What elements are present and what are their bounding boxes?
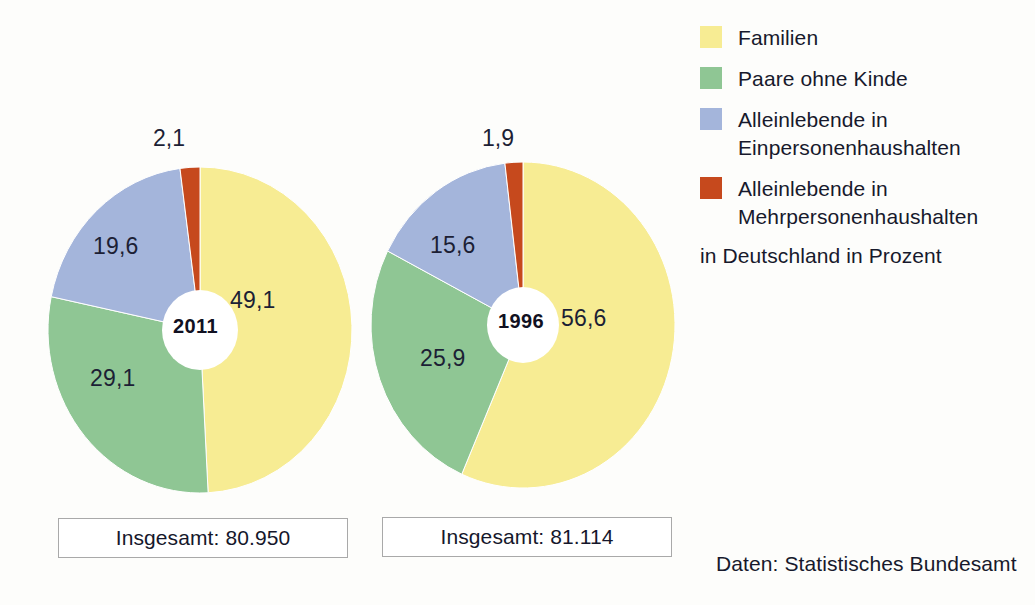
legend-swatch-blue xyxy=(700,108,722,130)
slice-label-orange-1996: 1,9 xyxy=(482,125,514,152)
legend-label-paare-ohne-kinde: Paare ohne Kinde xyxy=(738,65,908,93)
legend-swatch-orange xyxy=(700,177,722,199)
legend-item-mehrpersonenhaushalten: Alleinlebende in Mehrpersonenhaushalten xyxy=(700,175,1020,231)
legend: Familien Paare ohne Kinde Alleinlebende … xyxy=(700,24,1020,268)
legend-label-mehrpersonenhaushalten: Alleinlebende in Mehrpersonenhaushalten xyxy=(738,175,978,231)
legend-item-familien: Familien xyxy=(700,24,1020,52)
legend-item-paare-ohne-kinde: Paare ohne Kinde xyxy=(700,65,1020,93)
slice-label-orange-2011: 2,1 xyxy=(153,125,185,152)
total-box-2011: Insgesamt: 80.950 xyxy=(58,518,348,558)
slice-label-blue-1996: 15,6 xyxy=(430,232,476,259)
legend-label-einpersonenhaushalten: Alleinlebende in Einpersonenhaushalten xyxy=(738,106,961,162)
legend-item-einpersonenhaushalten: Alleinlebende in Einpersonenhaushalten xyxy=(700,106,1020,162)
slice-label-yellow-2011: 49,1 xyxy=(230,287,276,314)
source-note: Daten: Statistisches Bundesamt xyxy=(716,552,1017,576)
legend-label-familien: Familien xyxy=(738,24,818,52)
pie-chart-1996: 1,9 56,6 25,9 15,6 1996 xyxy=(368,160,678,490)
slice-label-blue-2011: 19,6 xyxy=(93,233,139,260)
slice-label-yellow-1996: 56,6 xyxy=(561,305,607,332)
pie-center-label-1996: 1996 xyxy=(498,310,544,333)
chart-canvas: 2,1 49,1 29,1 19,6 2011 1,9 56,6 25,9 15… xyxy=(0,0,1035,605)
legend-swatch-green xyxy=(700,67,722,89)
total-box-1996: Insgesamt: 81.114 xyxy=(382,517,672,557)
pie-chart-2011: 2,1 49,1 29,1 19,6 2011 xyxy=(45,165,355,495)
legend-unit-note: in Deutschland in Prozent xyxy=(700,244,1020,268)
pie-center-label-2011: 2011 xyxy=(173,315,218,338)
legend-swatch-yellow xyxy=(700,26,722,48)
slice-label-green-1996: 25,9 xyxy=(420,345,466,372)
slice-label-green-2011: 29,1 xyxy=(90,365,136,392)
